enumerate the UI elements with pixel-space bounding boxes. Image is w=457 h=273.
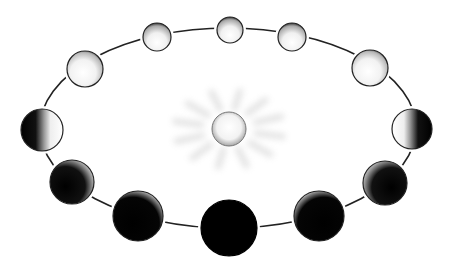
phase-crescent-lower-left-icon bbox=[50, 160, 94, 204]
phase-crescent-lower-right-icon bbox=[363, 161, 407, 205]
phase-quarter-left-icon bbox=[21, 109, 63, 151]
phase-quarter-right-icon bbox=[392, 109, 432, 149]
phase-thin-crescent-bottom-left-icon bbox=[113, 191, 163, 241]
phase-full-top-center-icon bbox=[217, 17, 243, 43]
phase-gibbous-upper-right-icon bbox=[352, 50, 388, 86]
orbit-diagram bbox=[0, 0, 457, 273]
phase-thin-crescent-bottom-right-icon bbox=[294, 191, 344, 241]
phase-new-bottom-center-icon bbox=[201, 200, 257, 256]
phase-gibbous-upper-left-icon bbox=[67, 51, 103, 87]
phase-gibbous-top-left-icon bbox=[143, 23, 171, 51]
phase-gibbous-top-right-icon bbox=[278, 23, 306, 51]
sun-icon bbox=[212, 112, 246, 146]
